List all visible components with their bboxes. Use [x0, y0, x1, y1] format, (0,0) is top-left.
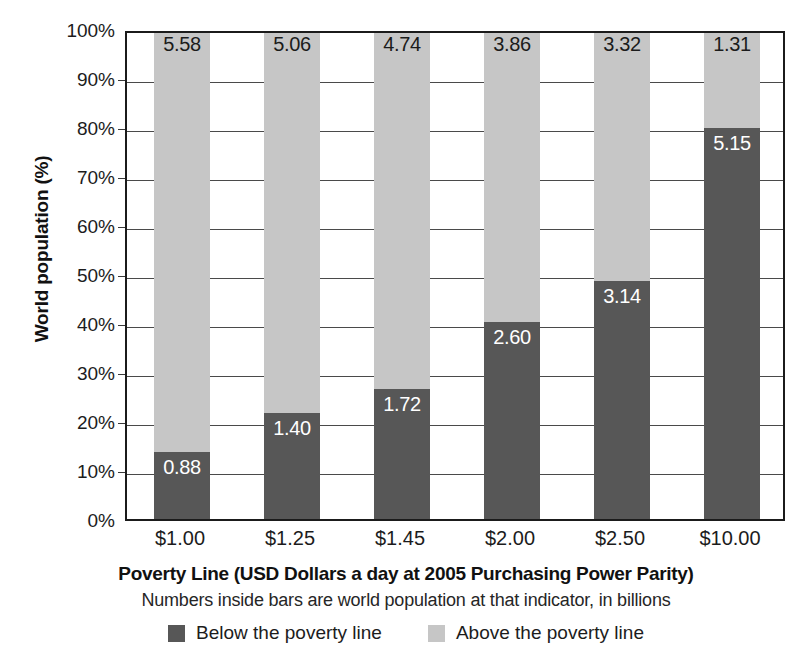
y-tick-mark — [118, 227, 125, 228]
y-tick-label: 60% — [77, 216, 115, 238]
x-axis-tick-labels: $1.00$1.25$1.45$2.00$2.50$10.00 — [125, 527, 785, 557]
bar-segment-above[interactable]: 4.74 — [374, 31, 430, 389]
bar-value-label-below: 2.60 — [484, 326, 540, 349]
bar-value-label-above: 5.58 — [154, 33, 210, 56]
bar-segment-below[interactable]: 5.15 — [704, 128, 760, 519]
y-tick-mark — [118, 325, 125, 326]
y-tick-mark — [118, 423, 125, 424]
y-tick-mark — [118, 472, 125, 473]
bar-segment-above[interactable]: 5.58 — [154, 31, 210, 452]
stacked-bar-chart: World population (%) 0%10%20%30%40%50%60… — [0, 0, 812, 666]
y-tick-label: 90% — [77, 69, 115, 91]
bar-segment-above[interactable]: 5.06 — [264, 31, 320, 413]
y-tick-mark — [118, 80, 125, 81]
bar-value-label-above: 3.86 — [484, 33, 540, 56]
gridline — [127, 327, 783, 328]
bar-value-label-below: 1.40 — [264, 417, 320, 440]
x-tick-label: $2.50 — [595, 527, 645, 550]
legend-item[interactable]: Below the poverty line — [168, 622, 382, 644]
y-tick-mark — [118, 374, 125, 375]
x-axis-title: Poverty Line (USD Dollars a day at 2005 … — [0, 563, 812, 585]
bar-value-label-above: 4.74 — [374, 33, 430, 56]
y-tick-label: 40% — [77, 314, 115, 336]
chart-subcaption: Numbers inside bars are world population… — [0, 590, 812, 611]
bar-segment-below[interactable]: 3.14 — [594, 281, 650, 519]
bar-value-label-below: 0.88 — [154, 456, 210, 479]
bar-value-label-above: 3.32 — [594, 33, 650, 56]
bar-group[interactable]: 5.580.88 — [154, 31, 210, 519]
y-tick-mark — [118, 276, 125, 277]
legend-swatch-below-icon — [168, 625, 185, 642]
x-tick-label: $1.45 — [375, 527, 425, 550]
bar-segment-below[interactable]: 0.88 — [154, 452, 210, 519]
legend-swatch-above-icon — [428, 625, 445, 642]
y-tick-label: 70% — [77, 167, 115, 189]
y-tick-label: 30% — [77, 363, 115, 385]
y-tick-label: 100% — [66, 20, 115, 42]
gridline — [127, 278, 783, 279]
bar-segment-below[interactable]: 1.40 — [264, 413, 320, 519]
bar-value-label-above: 1.31 — [704, 33, 760, 56]
x-tick-label: $2.00 — [485, 527, 535, 550]
y-tick-label: 20% — [77, 412, 115, 434]
bar-group[interactable]: 5.061.40 — [264, 31, 320, 519]
y-tick-label: 80% — [77, 118, 115, 140]
x-tick-label: $10.00 — [699, 527, 760, 550]
legend-label: Above the poverty line — [456, 622, 644, 644]
gridline — [127, 180, 783, 181]
bar-segment-above[interactable]: 3.32 — [594, 31, 650, 281]
gridline — [127, 474, 783, 475]
gridline — [127, 131, 783, 132]
bar-value-label-below: 5.15 — [704, 132, 760, 155]
bar-segment-above[interactable]: 3.86 — [484, 31, 540, 322]
y-axis-tick-labels: 0%10%20%30%40%50%60%70%80%90%100% — [0, 31, 125, 521]
y-tick-label: 50% — [77, 265, 115, 287]
gridline — [127, 425, 783, 426]
bar-segment-above[interactable]: 1.31 — [704, 31, 760, 128]
legend-label: Below the poverty line — [196, 622, 382, 644]
bar-value-label-below: 3.14 — [594, 285, 650, 308]
gridline — [127, 376, 783, 377]
bar-group[interactable]: 1.315.15 — [704, 31, 760, 519]
y-tick-mark — [118, 129, 125, 130]
x-tick-label: $1.25 — [265, 527, 315, 550]
bar-segment-below[interactable]: 2.60 — [484, 322, 540, 519]
bar-value-label-below: 1.72 — [374, 393, 430, 416]
gridline — [127, 82, 783, 83]
x-tick-label: $1.00 — [155, 527, 205, 550]
plot-area: 5.580.885.061.404.741.723.862.603.323.14… — [125, 31, 785, 521]
y-tick-label: 0% — [88, 510, 115, 532]
bar-group[interactable]: 3.323.14 — [594, 31, 650, 519]
y-tick-mark — [118, 178, 125, 179]
gridline — [127, 229, 783, 230]
bar-value-label-above: 5.06 — [264, 33, 320, 56]
bar-group[interactable]: 3.862.60 — [484, 31, 540, 519]
legend-item[interactable]: Above the poverty line — [428, 622, 644, 644]
bar-group[interactable]: 4.741.72 — [374, 31, 430, 519]
y-tick-label: 10% — [77, 461, 115, 483]
chart-legend: Below the poverty lineAbove the poverty … — [0, 622, 812, 644]
bar-segment-below[interactable]: 1.72 — [374, 389, 430, 519]
